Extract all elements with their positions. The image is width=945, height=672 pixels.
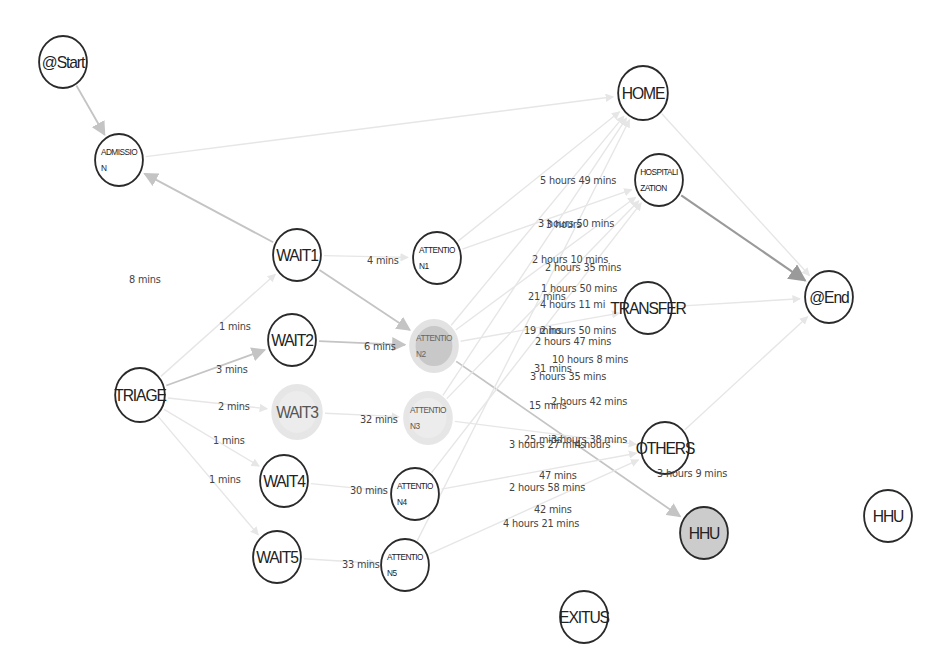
node-label: ATTENTIO N5 xyxy=(387,549,423,581)
edge-duration-label: 8 mins xyxy=(129,273,161,285)
process-map-canvas[interactable]: @StartADMISSIO NWAIT1ATTENTIO N1WAIT2ATT… xyxy=(0,0,945,672)
node-hhu-active[interactable]: HHU xyxy=(679,506,729,560)
node-label: @Start xyxy=(42,54,84,71)
node-start[interactable]: @Start xyxy=(38,35,88,89)
node-triage[interactable]: TRIAGE xyxy=(114,367,166,423)
edge-duration-label: 32 mins xyxy=(360,413,398,425)
node-hospitalization[interactable]: HOSPITALI ZATION xyxy=(634,153,684,207)
edge-duration-label: 33 mins xyxy=(342,558,380,570)
edge-hospitalization-to-end[interactable] xyxy=(681,195,805,280)
edge-home-to-end[interactable] xyxy=(662,114,810,276)
edge-wait1-to-attention2[interactable] xyxy=(319,270,409,330)
node-attention3[interactable]: ATTENTIO N3 xyxy=(403,391,453,445)
node-label: OTHERS xyxy=(636,440,695,457)
node-hhu[interactable]: HHU xyxy=(863,489,913,543)
edge-duration-label: 4 hours 21 mins xyxy=(503,517,579,529)
edges-layer xyxy=(0,0,945,672)
edge-duration-label: 42 mins xyxy=(534,503,572,515)
edge-duration-label: 47 mins xyxy=(539,469,577,481)
node-label: ADMISSIO N xyxy=(101,144,137,176)
node-home[interactable]: HOME xyxy=(617,65,669,121)
node-label: HOME xyxy=(622,85,665,102)
edge-duration-label: 2 hours 58 mins xyxy=(509,481,585,493)
node-label: ATTENTIO N1 xyxy=(419,242,455,274)
edge-duration-label: 5 hours 49 mins xyxy=(540,174,616,186)
node-label: WAIT2 xyxy=(271,332,313,349)
node-wait4[interactable]: WAIT4 xyxy=(259,454,309,508)
node-label: HHU xyxy=(873,508,904,525)
edge-duration-label: 4 hours 11 mi xyxy=(540,298,605,310)
node-label: WAIT4 xyxy=(263,473,305,490)
node-exitus[interactable]: EXITUS xyxy=(559,590,609,644)
edge-duration-label: 3 hours 35 mins xyxy=(530,370,606,382)
node-label: HOSPITALI ZATION xyxy=(640,164,678,196)
edge-duration-label: 3 hours 27 mins xyxy=(509,438,585,450)
node-wait1[interactable]: WAIT1 xyxy=(272,228,322,282)
node-attention4[interactable]: ATTENTIO N4 xyxy=(390,467,440,521)
edge-duration-label: 1 mins xyxy=(219,320,251,332)
edge-duration-label: 2 hours 42 mins xyxy=(551,395,627,407)
edge-duration-label: 4 mins xyxy=(367,254,399,266)
edge-others-to-end[interactable] xyxy=(685,317,808,430)
edge-duration-label: 3 mins xyxy=(216,363,248,375)
edge-duration-label: 3 hours xyxy=(546,218,581,230)
node-wait5[interactable]: WAIT5 xyxy=(252,530,302,584)
edge-duration-label: 6 mins xyxy=(364,340,396,352)
node-wait3[interactable]: WAIT3 xyxy=(271,384,323,440)
edge-duration-label: 2 mins xyxy=(218,400,250,412)
edge-transfer-to-end[interactable] xyxy=(675,299,800,307)
node-label: WAIT1 xyxy=(276,247,318,264)
node-label: EXITUS xyxy=(559,609,609,626)
edge-start-to-admission[interactable] xyxy=(76,85,104,134)
edge-duration-label: 30 mins xyxy=(350,484,388,496)
node-attention5[interactable]: ATTENTIO N5 xyxy=(380,538,430,592)
node-transfer[interactable]: TRANSFER xyxy=(623,281,673,335)
node-wait2[interactable]: WAIT2 xyxy=(267,313,317,367)
node-label: ATTENTIO N2 xyxy=(416,330,452,362)
edge-duration-label: 1 mins xyxy=(209,473,241,485)
node-attention1[interactable]: ATTENTIO N1 xyxy=(412,231,462,285)
node-label: WAIT5 xyxy=(256,549,298,566)
node-end[interactable]: @End xyxy=(804,270,854,324)
node-admission[interactable]: ADMISSIO N xyxy=(94,133,144,187)
edge-duration-label: 1 mins xyxy=(213,434,245,446)
node-label: ATTENTIO N4 xyxy=(397,478,433,510)
node-label: ATTENTIO N3 xyxy=(410,402,446,434)
edge-duration-label: 2 hours 35 mins xyxy=(545,261,621,273)
node-label: HHU xyxy=(689,525,720,542)
edge-admission-to-home[interactable] xyxy=(146,97,613,157)
node-attention2[interactable]: ATTENTIO N2 xyxy=(409,319,459,373)
edge-duration-label: 3 hours 9 mins xyxy=(657,467,727,479)
edge-wait1-to-admission[interactable] xyxy=(145,174,274,243)
edge-triage-to-wait4[interactable] xyxy=(164,409,259,466)
node-label: @End xyxy=(809,289,848,306)
node-label: WAIT3 xyxy=(276,404,318,421)
edge-duration-label: 2 hours 47 mins xyxy=(535,335,611,347)
node-label: TRIAGE xyxy=(114,387,166,404)
node-label: TRANSFER xyxy=(610,300,685,317)
edge-duration-label: 4 hours xyxy=(575,438,610,450)
